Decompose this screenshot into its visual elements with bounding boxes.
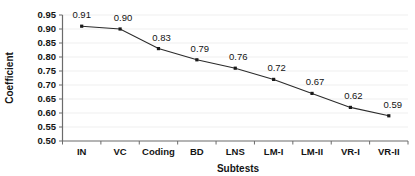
data-label-bd: 0.79 bbox=[191, 43, 210, 54]
y-tick-label-0.50: 0.50 bbox=[38, 135, 57, 146]
chart-canvas: 0.910.900.830.790.760.720.670.620.59 0.9… bbox=[0, 0, 415, 176]
coefficient-by-subtest-line-chart: 0.910.900.830.790.760.720.670.620.59 0.9… bbox=[0, 0, 415, 176]
data-point-lm-ii bbox=[310, 92, 313, 95]
y-axis-tick-labels: 0.950.900.850.800.750.700.650.600.550.50 bbox=[38, 9, 57, 146]
x-tick-label-coding: Coding bbox=[142, 146, 175, 157]
x-axis-tick-labels: INVCCodingBDLNSLM-ILM-IIVR-IVR-II bbox=[77, 146, 400, 157]
y-axis: 0.950.900.850.800.750.700.650.600.550.50 bbox=[38, 9, 63, 146]
y-tick-label-0.85: 0.85 bbox=[38, 37, 57, 48]
data-point-vr-ii bbox=[387, 114, 390, 117]
x-tick-label-vr-ii: VR-II bbox=[378, 146, 400, 157]
y-tick-label-0.70: 0.70 bbox=[38, 79, 57, 90]
data-label-lm-i: 0.72 bbox=[267, 62, 286, 73]
y-tick-label-0.75: 0.75 bbox=[38, 65, 57, 76]
data-point-vr-i bbox=[349, 106, 352, 109]
data-point-lns bbox=[234, 67, 237, 70]
x-axis: INVCCodingBDLNSLM-ILM-IIVR-IVR-II bbox=[63, 141, 409, 157]
x-tick-label-vc: VC bbox=[113, 146, 126, 157]
data-label-in: 0.91 bbox=[72, 9, 91, 20]
data-point-coding bbox=[157, 47, 160, 50]
x-axis-title: Subtests bbox=[217, 163, 260, 174]
data-label-vr-i: 0.62 bbox=[344, 90, 363, 101]
y-tick-label-0.55: 0.55 bbox=[38, 121, 57, 132]
data-label-lns: 0.76 bbox=[229, 51, 248, 62]
data-point-bd bbox=[195, 58, 198, 61]
x-tick-label-bd: BD bbox=[190, 146, 204, 157]
gridlines bbox=[63, 15, 409, 127]
data-point-vc bbox=[118, 27, 121, 30]
data-label-coding: 0.83 bbox=[152, 32, 171, 43]
y-tick-label-0.65: 0.65 bbox=[38, 93, 57, 104]
data-label-vc: 0.90 bbox=[114, 12, 133, 23]
data-point-labels: 0.910.900.830.790.760.720.670.620.59 bbox=[72, 9, 402, 110]
y-tick-label-0.90: 0.90 bbox=[38, 23, 57, 34]
data-point-lm-i bbox=[272, 78, 275, 81]
y-tick-label-0.95: 0.95 bbox=[38, 9, 57, 20]
data-point-in bbox=[80, 25, 83, 28]
x-tick-label-lm-ii: LM-II bbox=[301, 146, 323, 157]
data-label-vr-ii: 0.59 bbox=[384, 99, 403, 110]
x-tick-label-lm-i: LM-I bbox=[264, 146, 284, 157]
y-axis-title: Coefficient bbox=[4, 51, 15, 103]
x-tick-label-lns: LNS bbox=[226, 146, 245, 157]
y-tick-label-0.60: 0.60 bbox=[38, 107, 57, 118]
x-tick-label-vr-i: VR-I bbox=[341, 146, 360, 157]
x-tick-label-in: IN bbox=[77, 146, 87, 157]
y-tick-label-0.80: 0.80 bbox=[38, 51, 57, 62]
data-label-lm-ii: 0.67 bbox=[306, 76, 325, 87]
